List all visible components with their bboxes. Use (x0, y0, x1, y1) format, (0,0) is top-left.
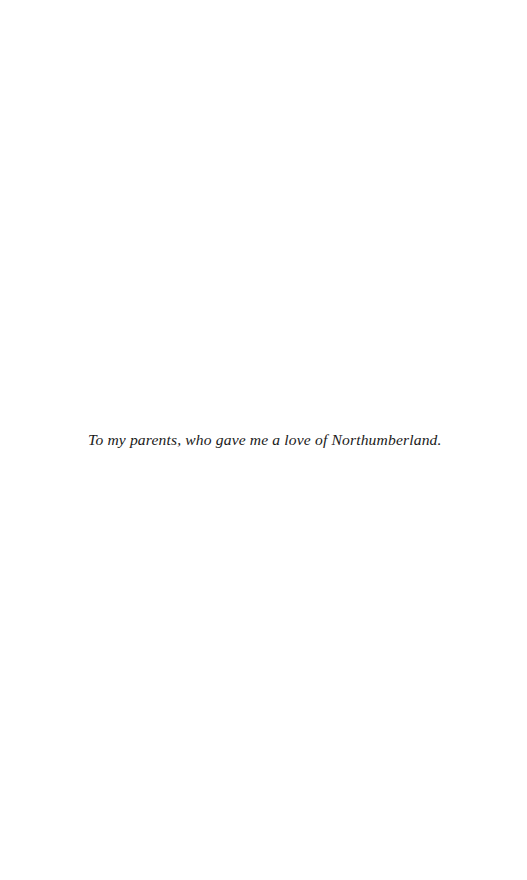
dedication-block: To my parents, who gave me a love of Nor… (88, 430, 488, 449)
dedication-text: To my parents, who gave me a love of Nor… (88, 430, 488, 449)
dedication-page: To my parents, who gave me a love of Nor… (0, 0, 527, 880)
